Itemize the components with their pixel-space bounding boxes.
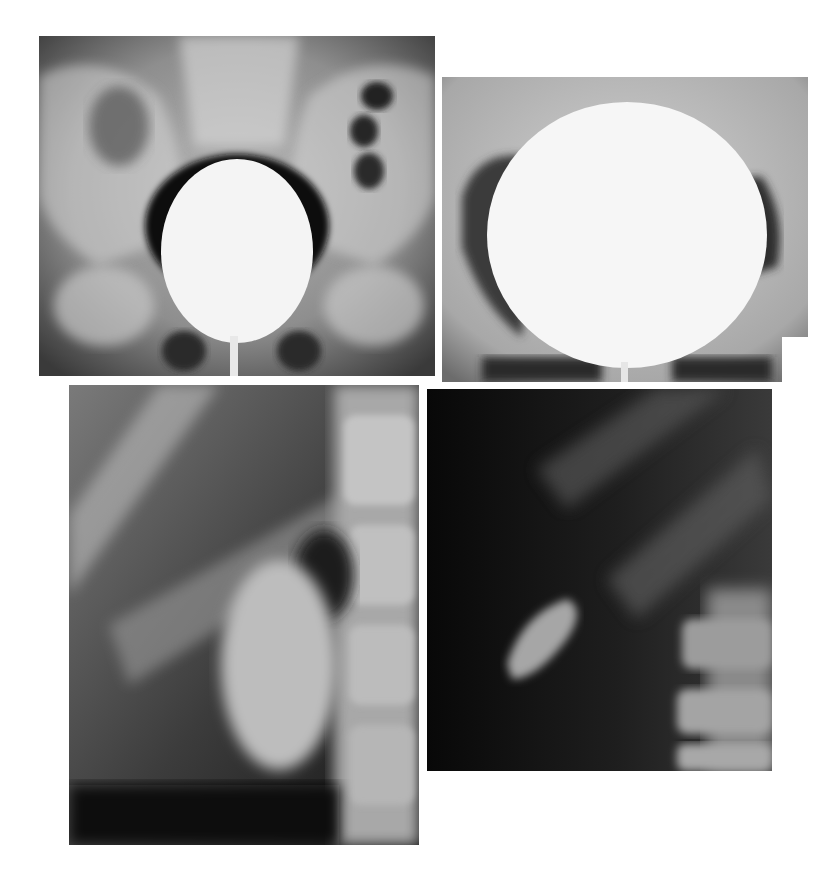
renal-xray-dark	[427, 389, 772, 771]
radiograph-panel-b	[442, 77, 808, 382]
opacified-kidney	[221, 560, 337, 770]
pelvis-xray-oval-bladder	[39, 36, 435, 376]
pelvis-xray-round-bladder	[442, 77, 808, 382]
radiograph-panel-d	[427, 389, 772, 771]
radiograph-panel-a	[39, 36, 435, 376]
radiograph-panel-c	[69, 385, 419, 845]
renal-xray-kidney	[69, 385, 419, 845]
contrast-bladder	[487, 102, 767, 368]
contrast-bladder	[161, 159, 313, 343]
